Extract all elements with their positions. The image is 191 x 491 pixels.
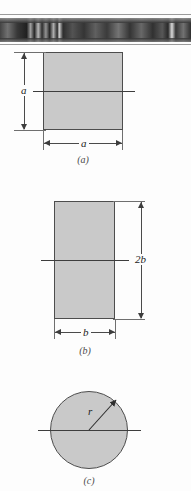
dimension-label-a-width: a bbox=[79, 138, 89, 149]
figure-caption-a: (a) bbox=[63, 155, 103, 165]
dimension-label-b-height: 2b bbox=[133, 254, 148, 265]
arrow-up-a-height bbox=[21, 53, 27, 59]
arrow-left-a-width bbox=[44, 140, 50, 146]
extension-line-b-right bbox=[115, 319, 116, 339]
extension-line-a-bottom bbox=[14, 130, 46, 131]
radius-leader-c bbox=[80, 392, 125, 434]
extension-line-a-top bbox=[14, 52, 46, 53]
arrow-left-b-width bbox=[55, 329, 61, 335]
figure-caption-b: (b) bbox=[65, 346, 105, 356]
centroidal-axis-a bbox=[33, 91, 135, 92]
extension-line-b-bottom bbox=[113, 319, 145, 320]
extension-line-a-right bbox=[122, 130, 123, 150]
arrow-down-a-height bbox=[21, 124, 27, 130]
figure-caption-c: (c) bbox=[69, 476, 109, 486]
scan-rule-bottom bbox=[0, 44, 191, 45]
arrow-up-b-height bbox=[138, 202, 144, 208]
scanned-strip-artifact bbox=[0, 18, 191, 42]
arrow-right-b-width bbox=[109, 329, 115, 335]
dimension-label-c-radius: r bbox=[88, 406, 92, 417]
arrow-down-b-height bbox=[138, 313, 144, 319]
arrow-right-a-width bbox=[116, 140, 122, 146]
dimension-label-a-height: a bbox=[19, 85, 29, 96]
dimension-label-b-width: b bbox=[81, 327, 91, 338]
centroidal-axis-b bbox=[41, 260, 129, 261]
figure-page: a a (a) 2b b (b) bbox=[0, 0, 191, 491]
scan-rule-top bbox=[0, 14, 191, 15]
